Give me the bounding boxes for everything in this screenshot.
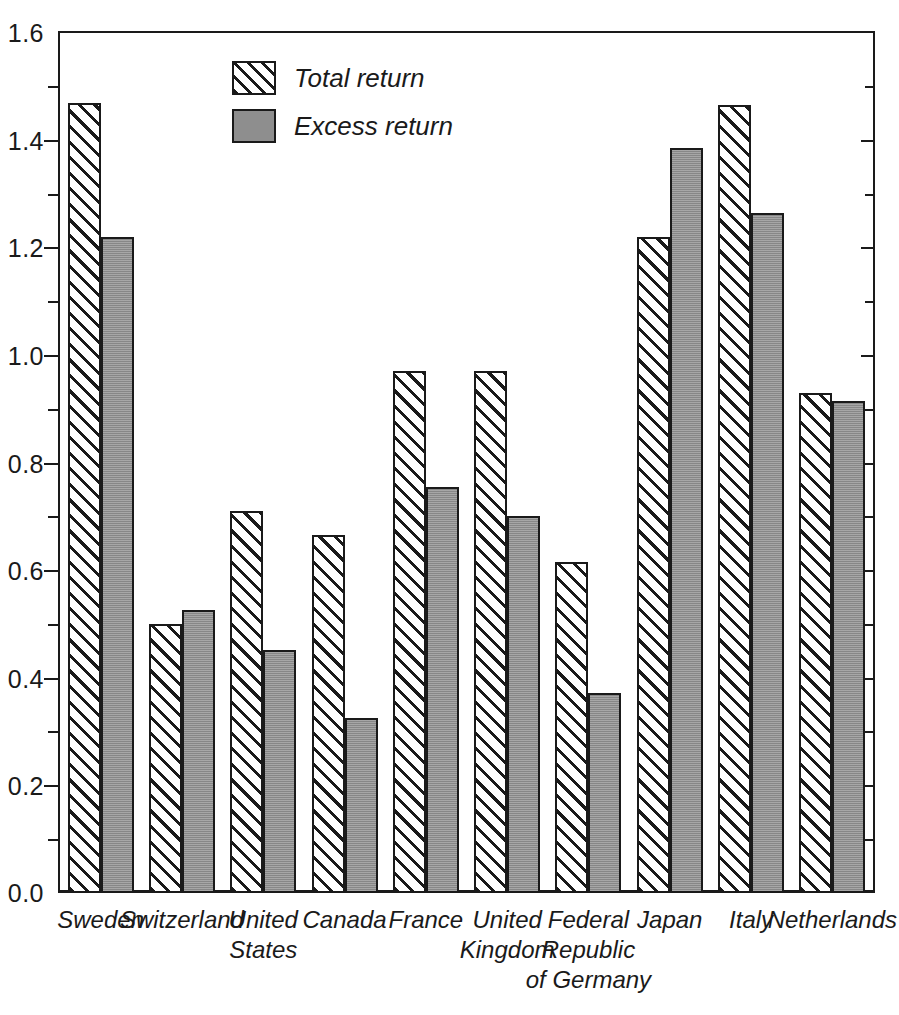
x-axis-label: Japan: [637, 905, 702, 935]
bar-total-return: [718, 105, 751, 893]
bar-total-return: [799, 393, 832, 893]
bar-excess-return: [263, 650, 296, 893]
legend: Total return Excess return: [232, 58, 453, 154]
bar-total-return: [68, 103, 101, 893]
x-axis-labels: SwedenSwitzerlandUnited StatesCanadaFran…: [0, 901, 899, 1015]
bar-excess-return: [832, 401, 865, 893]
bar-total-return: [637, 237, 670, 893]
x-axis-label: Netherlands: [768, 905, 897, 935]
bar-total-return: [149, 624, 182, 893]
legend-item-total-return: Total return: [232, 58, 453, 98]
bar-excess-return: [507, 516, 540, 893]
bar-excess-return: [588, 693, 621, 893]
bar-total-return: [393, 371, 426, 893]
gray-swatch-icon: [232, 109, 276, 143]
bar-total-return: [474, 371, 507, 893]
bar-total-return: [230, 511, 263, 893]
x-axis-label: Canada: [303, 905, 387, 935]
bar-excess-return: [345, 718, 378, 893]
legend-label: Total return: [294, 63, 425, 94]
bar-excess-return: [426, 487, 459, 893]
bar-chart: 1.6 1.4 1.2 1.0 0.8 0.6 0.4 0.2 0.0: [0, 0, 899, 1015]
legend-label: Excess return: [294, 111, 453, 142]
bar-total-return: [555, 562, 588, 893]
bar-total-return: [312, 535, 345, 893]
bar-excess-return: [670, 148, 703, 893]
x-axis-label: United States: [229, 905, 298, 965]
bar-excess-return: [751, 213, 784, 893]
bar-excess-return: [182, 610, 215, 893]
x-axis-label: Switzerland: [120, 905, 244, 935]
x-axis-label: Federal Republic of Germany: [526, 905, 651, 995]
x-axis-label: France: [388, 905, 463, 935]
bar-excess-return: [101, 237, 134, 893]
legend-item-excess-return: Excess return: [232, 106, 453, 146]
x-axis-label: Italy: [729, 905, 773, 935]
hatched-swatch-icon: [232, 61, 276, 95]
